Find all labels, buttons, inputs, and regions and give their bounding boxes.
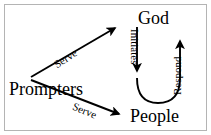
node-label-god: God xyxy=(138,9,169,27)
diagram-figure: God People Prompters Initiates Respond S… xyxy=(0,0,211,135)
node-label-prompters: Prompters xyxy=(9,80,83,98)
edge-label-initiates: Initiates xyxy=(129,29,140,64)
edge-label-respond: Respond xyxy=(172,57,183,96)
node-label-people: People xyxy=(130,107,179,125)
